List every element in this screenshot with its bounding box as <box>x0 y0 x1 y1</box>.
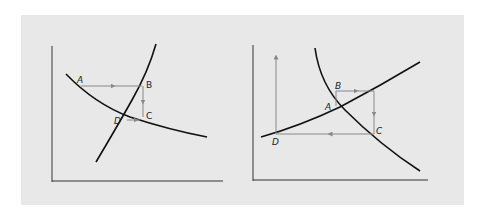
left-label-c: C <box>146 111 152 121</box>
left-increasing-curve <box>96 44 156 162</box>
left-decreasing-curve <box>66 74 207 137</box>
right-label-a: A <box>324 102 331 112</box>
cobweb-diagrams: A B C D A B C D <box>0 0 482 220</box>
right-label-d: D <box>272 137 279 147</box>
left-label-b: B <box>146 80 152 90</box>
left-diagram: A B C D <box>52 44 223 182</box>
right-label-b: B <box>335 81 341 91</box>
left-label-d: D <box>114 116 121 126</box>
right-increasing-curve <box>261 62 420 137</box>
left-cobweb-path <box>81 86 143 120</box>
right-cobweb-path <box>276 57 374 134</box>
left-label-a: A <box>76 75 83 85</box>
right-label-c: C <box>376 126 383 136</box>
right-diagram: A B C D <box>253 45 428 181</box>
